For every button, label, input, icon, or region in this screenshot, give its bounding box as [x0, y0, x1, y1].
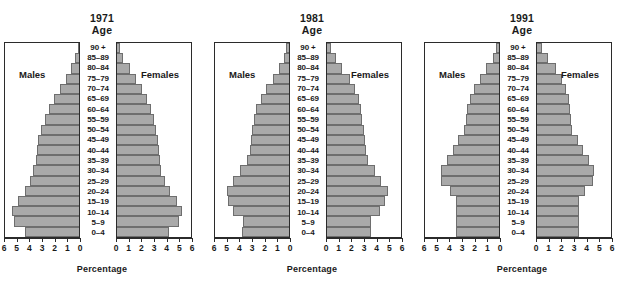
- bar-1519-male: [228, 196, 289, 206]
- age-tick-label: 45–49: [290, 135, 326, 145]
- bar-row: [425, 104, 499, 114]
- bar-row: [215, 43, 289, 53]
- axis-tick-label: 6: [422, 243, 427, 253]
- bar-row: [117, 43, 191, 53]
- bar-59-female: [537, 216, 579, 226]
- age-tick-label: 50–54: [500, 125, 536, 135]
- bar-row: [5, 176, 79, 186]
- axis-tick-label: 4: [27, 243, 32, 253]
- age-tick-label: 75–79: [80, 73, 116, 83]
- axis-tick-label: 3: [572, 243, 577, 253]
- bar-3539-female: [327, 155, 368, 165]
- axis-tick: [389, 238, 390, 242]
- bar-row: [117, 186, 191, 196]
- age-tick-label: 60–64: [290, 104, 326, 114]
- female-caption: Females: [561, 69, 599, 80]
- axis-tick: [239, 238, 240, 242]
- bar-2024-female: [537, 186, 585, 196]
- bar-row: [537, 145, 611, 155]
- bar-7579-male: [66, 74, 79, 84]
- bar-row: [215, 94, 289, 104]
- age-tick-label: 85–89: [290, 52, 326, 62]
- bar-7579-male: [273, 74, 289, 84]
- age-tick-label: 80–84: [290, 63, 326, 73]
- bar-6569-female: [537, 94, 569, 104]
- age-axis-header: Age: [210, 24, 414, 36]
- age-tick-label: 0–4: [290, 228, 326, 238]
- bar-row: [117, 135, 191, 145]
- age-tick-labels: 90 +85–8980–8475–7970–7465–6960–6455–595…: [290, 42, 326, 238]
- bar-2024-male: [450, 186, 499, 196]
- bar-4044-female: [327, 145, 366, 155]
- axis-tick: [326, 238, 327, 242]
- bar-row: [215, 186, 289, 196]
- female-caption: Females: [351, 69, 389, 80]
- bar-4549-female: [117, 135, 158, 145]
- bar-90+-female: [327, 43, 331, 53]
- bar-5054-female: [537, 125, 572, 135]
- axis-tick: [549, 238, 550, 242]
- bar-row: [117, 125, 191, 135]
- bar-row: [537, 43, 611, 53]
- bar-1519-male: [456, 196, 499, 206]
- bar-8589-male: [493, 53, 499, 63]
- bar-row: [5, 145, 79, 155]
- bar-row: [327, 206, 401, 216]
- axis-tick: [449, 238, 450, 242]
- axis-tick-label: 6: [610, 243, 615, 253]
- age-tick-label: 85–89: [80, 52, 116, 62]
- bar-row: [215, 216, 289, 226]
- axis-tick-label: 5: [177, 243, 182, 253]
- bar-row: [425, 43, 499, 53]
- female-x-axis: 0123456: [536, 238, 612, 256]
- bar-6064-female: [537, 104, 570, 114]
- pyramid-title-block: 1981Age: [210, 12, 414, 37]
- x-axis-title: Percentage: [0, 264, 204, 274]
- bar-row: [5, 216, 79, 226]
- axis-tick: [277, 238, 278, 242]
- bar-row: [215, 227, 289, 237]
- age-tick-label: 70–74: [80, 83, 116, 93]
- bar-6064-male: [467, 104, 499, 114]
- age-tick-label: 50–54: [290, 125, 326, 135]
- bar-8084-male: [279, 63, 289, 73]
- age-tick-labels: 90 +85–8980–8475–7970–7465–6960–6455–595…: [80, 42, 116, 238]
- bar-row: [5, 114, 79, 124]
- bar-row: [5, 135, 79, 145]
- bar-04-female: [117, 227, 169, 237]
- bar-2529-female: [117, 176, 165, 186]
- bar-2024-male: [227, 186, 289, 196]
- bar-2529-female: [327, 176, 381, 186]
- age-tick-label: 10–14: [290, 207, 326, 217]
- axis-tick: [141, 238, 142, 242]
- age-tick-label: 90 +: [80, 42, 116, 52]
- bar-row: [327, 227, 401, 237]
- age-tick-label: 70–74: [500, 83, 536, 93]
- axis-tick: [214, 238, 215, 242]
- bar-row: [425, 155, 499, 165]
- age-axis-header: Age: [0, 24, 204, 36]
- pyramid-title-block: 1971Age: [0, 12, 204, 37]
- bar-5559-female: [327, 114, 362, 124]
- age-tick-label: 55–59: [500, 114, 536, 124]
- bar-6569-male: [54, 94, 79, 104]
- bar-row: [537, 104, 611, 114]
- bar-4044-male: [453, 145, 499, 155]
- bar-3539-male: [447, 155, 499, 165]
- bar-row: [117, 155, 191, 165]
- bar-row: [5, 53, 79, 63]
- bar-8084-male: [486, 63, 499, 73]
- bar-3034-male: [33, 165, 79, 175]
- bar-90+-male: [496, 43, 499, 53]
- bar-3034-female: [327, 165, 375, 175]
- axis-tick-label: 0: [324, 243, 329, 253]
- bar-row: [425, 165, 499, 175]
- age-tick-label: 65–69: [500, 94, 536, 104]
- age-tick-label: 15–19: [500, 197, 536, 207]
- age-tick-label: 5–9: [500, 217, 536, 227]
- bar-row: [327, 125, 401, 135]
- age-tick-label: 85–89: [500, 52, 536, 62]
- age-tick-label: 25–29: [290, 176, 326, 186]
- axis-tick-label: 2: [472, 243, 477, 253]
- axis-tick: [462, 238, 463, 242]
